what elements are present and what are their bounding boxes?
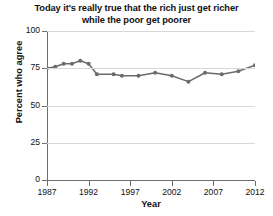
x-tick-mark [89,181,90,186]
x-tick-mark [130,181,131,186]
y-tick-label: 50 [0,100,40,110]
series-polyline [47,61,255,82]
data-point-marker [220,72,224,76]
data-point-marker [87,62,91,66]
gridline [47,31,255,32]
x-axis-title: Year [47,199,255,209]
gridline [47,68,255,69]
data-point-marker [62,62,66,66]
data-point-marker [70,62,74,66]
x-tick-label: 1992 [69,187,109,197]
chart-title-line-1: Today it's really true that the rich jus… [14,3,259,15]
data-point-marker [137,74,141,78]
data-point-marker [236,69,240,73]
x-tick-mark [47,181,48,186]
x-tick-mark [172,181,173,186]
y-axis-title: Percent who agree [14,27,24,137]
data-point-marker [186,80,190,84]
y-tick-label: 100 [0,25,40,35]
x-tick-label: 2002 [152,187,192,197]
data-point-marker [78,59,82,63]
gridline [47,106,255,107]
x-tick-mark [255,181,256,186]
x-tick-label: 2007 [193,187,233,197]
y-tick-label: 0 [0,174,40,184]
y-tick-mark [42,68,47,69]
x-tick-label: 1987 [27,187,67,197]
y-tick-mark [42,31,47,32]
data-point-marker [203,71,207,75]
chart-title: Today it's really true that the rich jus… [14,3,259,26]
x-axis-line [47,180,255,181]
y-tick-mark [42,143,47,144]
gridline [47,143,255,144]
data-point-marker [170,74,174,78]
chart-title-line-2: while the poor get poorer [14,15,259,27]
data-point-marker [112,72,116,76]
data-point-marker [153,71,157,75]
data-point-marker [120,74,124,78]
chart-container: Today it's really true that the rich jus… [0,0,273,216]
x-tick-mark [213,181,214,186]
x-tick-label: 1997 [110,187,150,197]
y-tick-label: 75 [0,62,40,72]
x-tick-label: 2012 [235,187,273,197]
y-tick-mark [42,106,47,107]
data-point-marker [95,72,99,76]
y-tick-label: 25 [0,137,40,147]
